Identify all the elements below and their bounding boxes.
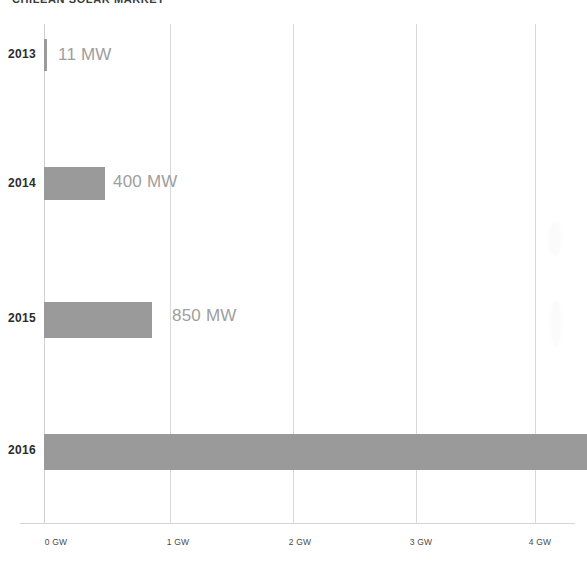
tick-label-1gw: 1 GW <box>167 537 190 547</box>
bar-2015[interactable] <box>44 302 152 338</box>
tick-label-2gw: 2 GW <box>289 537 312 547</box>
tick-label-3gw: 3 GW <box>410 537 433 547</box>
tick-label-4gw: 4 GW <box>529 537 552 547</box>
value-label-2015: 850 MW <box>172 306 237 326</box>
value-label-2013: 11 MW <box>58 45 112 65</box>
plot-area <box>44 24 587 523</box>
x-axis-baseline <box>20 523 575 524</box>
year-label-2014: 2014 <box>8 176 36 190</box>
tick-label-0gw: 0 GW <box>45 537 68 547</box>
bar-2014[interactable] <box>44 167 105 200</box>
chart-title: CHILEAN SOLAR MARKET <box>12 0 165 5</box>
value-label-2014: 400 MW <box>113 172 178 192</box>
bar-chart: CHILEAN SOLAR MARKET 2013 2014 2015 2016… <box>0 0 587 561</box>
year-label-2013: 2013 <box>8 47 36 61</box>
year-label-2016: 2016 <box>8 443 36 457</box>
bar-2013[interactable] <box>44 39 47 71</box>
bar-2016[interactable] <box>44 434 587 470</box>
year-label-2015: 2015 <box>8 311 36 325</box>
